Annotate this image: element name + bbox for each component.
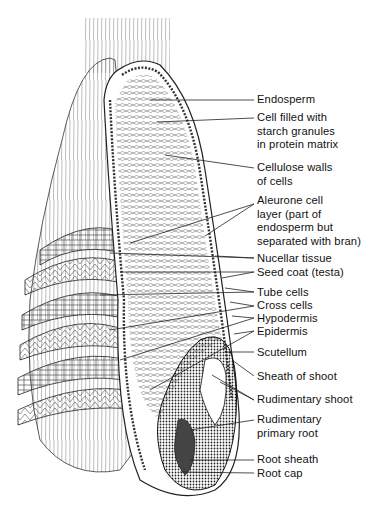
label-hypodermis: Hypodermis (257, 312, 318, 326)
label-scutellum: Scutellum (257, 346, 307, 360)
label-aleurone-layer: Aleurone cell layer (part of endosperm b… (257, 194, 361, 248)
label-endosperm: Endosperm (257, 93, 315, 107)
label-cell-filled-with-starch: Cell filled with starch granules in prot… (257, 111, 338, 152)
label-cross-cells: Cross cells (257, 299, 313, 313)
label-seed-coat: Seed coat (testa) (257, 266, 344, 280)
label-rudimentary-shoot: Rudimentary shoot (257, 393, 353, 407)
label-rudimentary-primary-root: Rudimentary primary root (257, 413, 322, 440)
label-epidermis: Epidermis (257, 325, 308, 339)
label-sheath-of-shoot: Sheath of shoot (257, 370, 337, 384)
label-root-sheath: Root sheath (257, 453, 318, 467)
label-nucellar-tissue: Nucellar tissue (257, 252, 332, 266)
label-tube-cells: Tube cells (257, 286, 309, 300)
label-root-cap: Root cap (257, 467, 303, 481)
label-cellulose-walls: Cellulose walls of cells (257, 161, 333, 188)
